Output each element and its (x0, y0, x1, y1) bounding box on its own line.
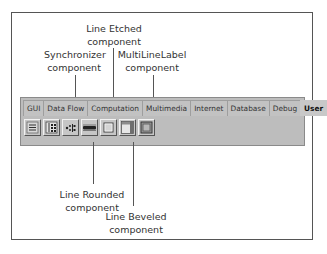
callout-synchronizer-sub: component (44, 61, 104, 74)
line-rounded-icon (83, 121, 96, 134)
callout-line-rounded-title: Line Rounded (57, 188, 127, 201)
callout-multilinelabel-title: MultiLineLabel (117, 48, 187, 61)
callout-line-etched: Line Etched component (86, 22, 142, 48)
synchronizer-icon (64, 121, 77, 134)
callout-line-etched-title: Line Etched (86, 22, 142, 35)
tab-debug[interactable]: Debug (269, 100, 301, 116)
tab-multimedia[interactable]: Multimedia (142, 100, 191, 116)
grid-list-icon (45, 121, 58, 134)
callout-multilinelabel: MultiLineLabel component (117, 48, 187, 74)
component-palette: GUI Data Flow Computation Multimedia Int… (20, 97, 305, 146)
tool-line-rounded-button[interactable] (81, 119, 98, 136)
callout-synchronizer: Synchronizer component (44, 48, 104, 74)
line-beveled-icon (121, 121, 134, 134)
tool-grid-list-button[interactable] (43, 119, 60, 136)
tab-computation[interactable]: Computation (87, 100, 143, 116)
tab-database[interactable]: Database (227, 100, 270, 116)
tool-list-button[interactable] (24, 119, 41, 136)
tool-multilinelabel-button[interactable] (138, 119, 155, 136)
tool-synchronizer-button[interactable] (62, 119, 79, 136)
tab-data-flow[interactable]: Data Flow (43, 100, 88, 116)
tab-user[interactable]: User (300, 100, 327, 116)
callout-multilinelabel-sub: component (117, 61, 187, 74)
tool-line-beveled-button[interactable] (119, 119, 136, 136)
multilinelabel-icon (140, 121, 153, 134)
callout-line-beveled: Line Beveled component (101, 210, 171, 236)
leader-line-beveled (133, 142, 134, 206)
callout-synchronizer-title: Synchronizer (44, 48, 104, 61)
line-etched-icon (102, 121, 115, 134)
palette-tabs: GUI Data Flow Computation Multimedia Int… (23, 100, 326, 117)
tool-line-etched-button[interactable] (100, 119, 117, 136)
palette-tools (24, 119, 155, 136)
callout-line-beveled-title: Line Beveled (101, 210, 171, 223)
tab-internet[interactable]: Internet (190, 100, 227, 116)
callout-line-etched-sub: component (86, 35, 142, 48)
leader-line-rounded (93, 142, 94, 184)
list-icon (26, 121, 39, 134)
callout-line-beveled-sub: component (101, 223, 171, 236)
tab-gui[interactable]: GUI (23, 100, 44, 116)
